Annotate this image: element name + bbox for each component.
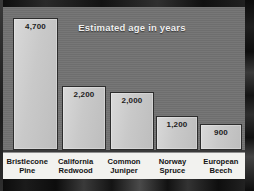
bar-value-label: 4,700 xyxy=(14,22,57,31)
chart-title: Estimated age in years xyxy=(72,22,192,33)
bar-value-label: 2,200 xyxy=(63,90,105,99)
category-line-2: Pine xyxy=(19,166,35,176)
category-line-2: Juniper xyxy=(110,166,137,176)
category-label-european-beech: European Beech xyxy=(197,153,245,179)
category-line-1: Bristlecone xyxy=(7,157,48,167)
bar-california-redwood[interactable]: 2,200 xyxy=(62,86,106,150)
bar-value-label: 1,200 xyxy=(157,120,197,129)
bar-european-beech[interactable]: 900 xyxy=(200,124,242,150)
bar-value-label: 900 xyxy=(201,128,241,137)
bar-bristlecone-pine[interactable]: 4,700 xyxy=(13,18,58,150)
video-frame: Estimated age in years 4,700 2,200 2,000… xyxy=(0,0,254,191)
bar-common-juniper[interactable]: 2,000 xyxy=(110,92,154,150)
category-line-2: Redwood xyxy=(59,166,93,176)
category-label-common-juniper: Common Juniper xyxy=(100,153,148,179)
category-line-2: Beech xyxy=(209,166,232,176)
bar-norway-spruce[interactable]: 1,200 xyxy=(156,116,198,150)
category-line-1: Common xyxy=(108,157,141,167)
bar-value-label: 2,000 xyxy=(111,96,153,105)
category-label-strip: Bristlecone Pine California Redwood Comm… xyxy=(3,152,245,179)
category-line-2: Spruce xyxy=(160,166,186,176)
category-line-1: Norway xyxy=(159,157,186,167)
category-label-bristlecone-pine: Bristlecone Pine xyxy=(3,153,51,179)
category-line-1: European xyxy=(203,157,238,167)
category-label-california-redwood: California Redwood xyxy=(51,153,99,179)
category-line-1: California xyxy=(58,157,93,167)
category-label-norway-spruce: Norway Spruce xyxy=(148,153,196,179)
